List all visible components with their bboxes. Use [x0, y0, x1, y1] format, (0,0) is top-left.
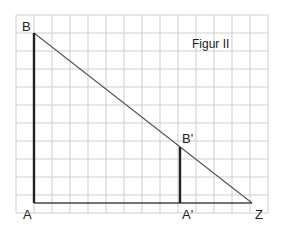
label-z: Z	[255, 207, 263, 222]
label-b-prime: B'	[182, 131, 193, 146]
label-a: A	[23, 207, 32, 222]
label-b: B	[22, 19, 31, 34]
similar-triangles-figure: B A Z A' B' Figur II	[0, 0, 286, 239]
grid	[16, 15, 268, 213]
figure-title: Figur II	[192, 37, 229, 51]
label-a-prime: A'	[182, 207, 193, 222]
